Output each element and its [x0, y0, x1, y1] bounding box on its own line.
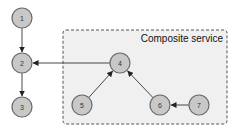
node-4: 4	[110, 53, 130, 73]
node-label: 6	[158, 102, 162, 109]
node-label: 7	[197, 102, 201, 109]
node-label: 2	[20, 60, 24, 67]
node-label: 3	[20, 104, 24, 111]
node-3: 3	[12, 97, 32, 117]
node-label: 5	[80, 102, 84, 109]
node-7: 7	[189, 95, 209, 115]
node-6: 6	[150, 95, 170, 115]
node-5: 5	[72, 95, 92, 115]
diagram-canvas: Composite service 1234567	[0, 0, 238, 134]
node-2: 2	[12, 53, 32, 73]
node-1: 1	[12, 8, 32, 28]
composite-service-label: Composite service	[141, 33, 224, 44]
node-label: 1	[20, 15, 24, 22]
node-label: 4	[118, 60, 122, 67]
